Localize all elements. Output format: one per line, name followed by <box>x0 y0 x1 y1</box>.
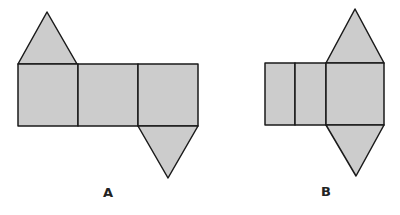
net-a-rect-3 <box>138 64 198 126</box>
net-a-top-triangle <box>18 12 77 64</box>
net-b-bottom-triangle <box>326 125 384 176</box>
net-a <box>18 12 198 178</box>
nets-diagram <box>0 0 400 215</box>
net-b-top-triangle <box>326 9 384 63</box>
label-b: B <box>321 184 331 199</box>
net-a-bottom-triangle <box>138 126 198 178</box>
net-a-rect-2 <box>78 64 138 126</box>
net-b <box>265 9 384 176</box>
net-a-rect-1 <box>18 64 78 126</box>
net-b-rect-1 <box>265 63 295 125</box>
net-b-square <box>326 63 384 125</box>
label-a: A <box>103 185 113 200</box>
net-b-rect-2 <box>295 63 326 125</box>
